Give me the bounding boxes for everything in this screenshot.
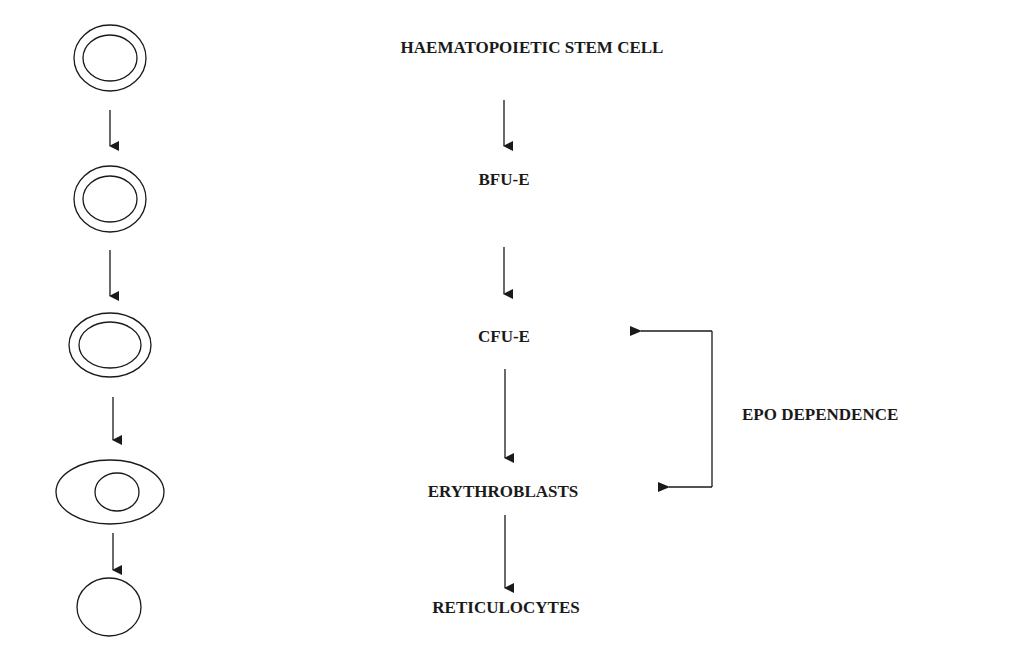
stage-label-cfu-e: CFU-E (478, 327, 530, 347)
erythroblast-cell-icon (56, 460, 164, 524)
epo-dependence-label: EPO DEPENDENCE (742, 405, 898, 425)
epo-dependence-bracket (641, 331, 712, 487)
stage-label-reticulocytes: RETICULOCYTES (432, 598, 579, 618)
stage-label-bfu-e: BFU-E (479, 170, 530, 190)
cfu-e-cell-icon (69, 313, 151, 377)
stage-label-erythroblasts: ERYTHROBLASTS (428, 482, 579, 502)
stage-label-stem-cell: HAEMATOPOIETIC STEM CELL (401, 38, 664, 58)
stem-cell-icon (74, 25, 146, 91)
erythropoiesis-diagram: HAEMATOPOIETIC STEM CELL BFU-E CFU-E ERY… (0, 0, 1010, 669)
reticulocyte-cell-icon (77, 578, 141, 636)
bfu-e-cell-icon (74, 166, 146, 232)
